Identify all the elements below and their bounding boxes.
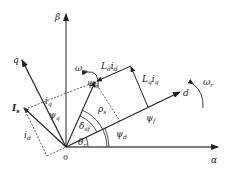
psi-f-label: ψf	[146, 113, 157, 125]
theta-r-label: θr	[78, 137, 87, 148]
psi-q-label: ψq	[49, 110, 60, 122]
lq-iq-vector	[131, 67, 148, 107]
dashed-is-to-d	[24, 108, 47, 156]
is-label: Is	[11, 103, 20, 114]
omega-r-arc	[193, 84, 203, 108]
omega-psi-label: ωψ	[75, 63, 87, 75]
q-label: q	[13, 55, 19, 65]
phasor-diagram: β α d q 0 ψs ψf ψd ψq Is iq id Ldid Lqiq…	[0, 0, 230, 173]
d-label: d	[183, 88, 189, 98]
psi-s-label: ψs	[87, 78, 97, 89]
beta-label: β	[54, 12, 60, 22]
theta-r-arc	[86, 137, 88, 147]
id-label: id	[24, 130, 31, 141]
alpha-label: α	[211, 155, 217, 165]
omega-r-label: ωr	[203, 77, 214, 88]
rho-s-label: ρs	[97, 104, 106, 115]
origin-label: 0	[63, 153, 68, 162]
psi-d-label: ψd	[116, 129, 127, 140]
delta-sf-label: δsf	[79, 121, 92, 133]
dashed-psi-s-to-d	[95, 82, 120, 121]
lq-iq-label: Lqiq	[141, 74, 159, 86]
ld-id-label: Ldid	[100, 61, 118, 72]
